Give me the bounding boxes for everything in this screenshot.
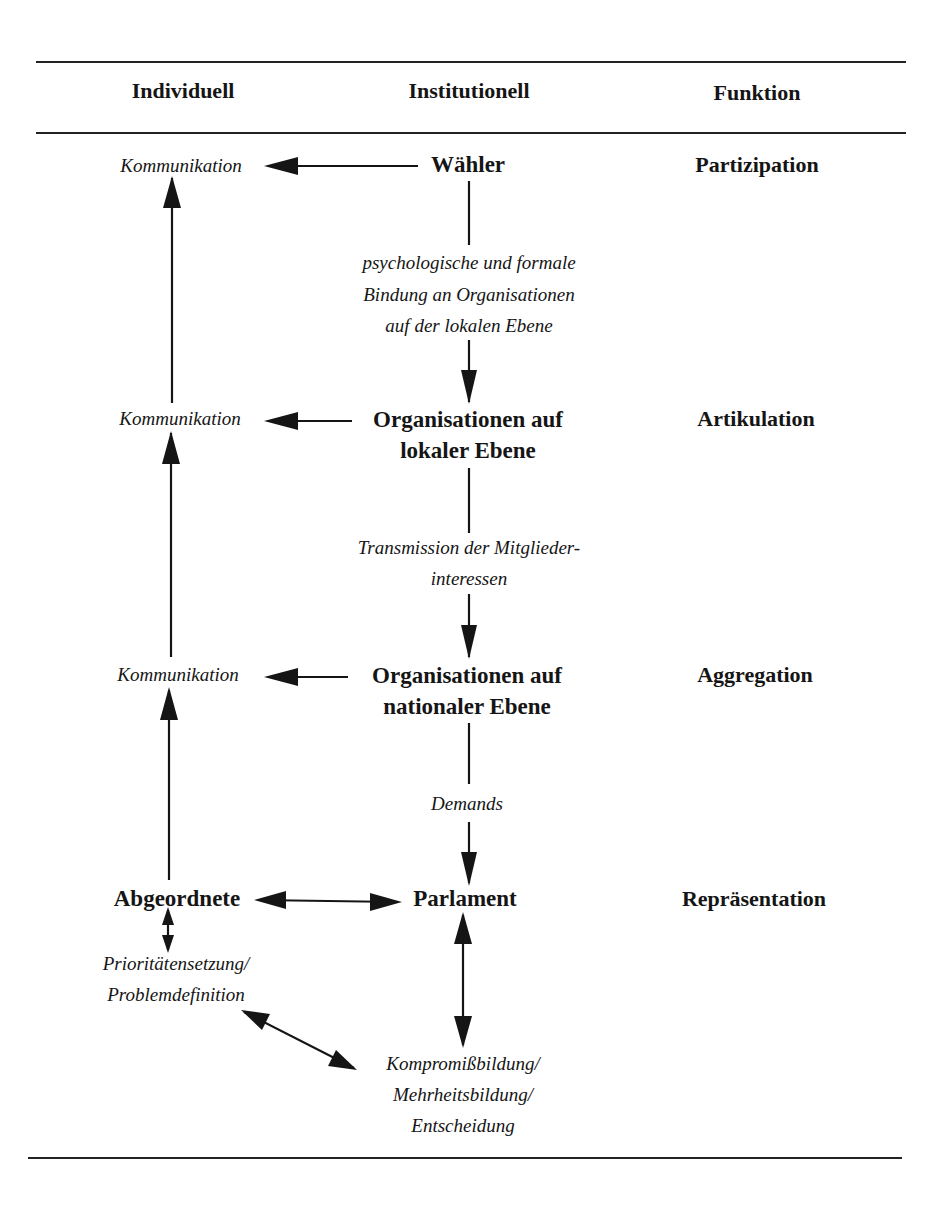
decision-label-line3: Entscheidung (411, 1110, 514, 1141)
national-org-node-line1: Organisationen auf (372, 660, 562, 691)
local-org-node-line1: Organisationen auf (373, 404, 563, 435)
link2-label-line1: Transmission der Mitglieder- (358, 532, 580, 563)
diagram-arrows (0, 0, 945, 1216)
parliament-node: Parlament (413, 883, 516, 914)
link3-label: Demands (431, 788, 503, 819)
function-aggregation: Aggregation (697, 662, 813, 688)
link1-label-line3: auf der lokalen Ebene (385, 310, 552, 341)
deputies-node: Abgeordnete (114, 883, 240, 914)
national-org-node-line2: nationaler Ebene (383, 691, 551, 722)
decision-label-line2: Mehrheitsbildung/ (393, 1079, 533, 1110)
communication-label-3: Kommunikation (117, 659, 238, 690)
function-representation: Repräsentation (682, 886, 826, 912)
communication-label-1: Kommunikation (120, 150, 241, 181)
link1-label-line1: psychologische und formale (362, 247, 575, 278)
voters-node: Wähler (431, 149, 505, 180)
communication-label-2: Kommunikation (119, 403, 240, 434)
function-articulation: Artikulation (697, 406, 814, 432)
decision-label-line1: Kompromißbildung/ (386, 1048, 539, 1079)
function-participation: Partizipation (695, 152, 818, 178)
link2-label-line2: interessen (431, 563, 507, 594)
local-org-node-line2: lokaler Ebene (400, 435, 536, 466)
priority-label-line2: Problemdefinition (107, 979, 245, 1010)
link1-label-line2: Bindung an Organisationen (363, 279, 574, 310)
priority-label-line1: Prioritätensetzung/ (103, 948, 250, 979)
